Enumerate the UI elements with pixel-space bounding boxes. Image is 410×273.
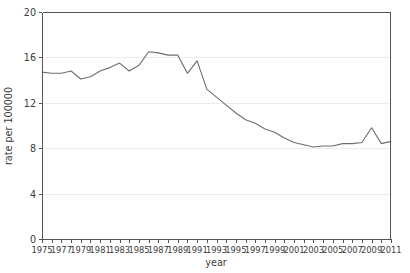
x-tick-label: 2003 bbox=[303, 245, 324, 255]
x-tick-label: 2011 bbox=[380, 245, 401, 255]
x-tick-label: 1977 bbox=[51, 245, 72, 255]
x-tick-label: 2005 bbox=[322, 245, 343, 255]
y-axis-title: rate per 100000 bbox=[3, 87, 14, 165]
x-tick-label: 1987 bbox=[148, 245, 169, 255]
y-tick-label: 12 bbox=[24, 98, 36, 109]
x-tick-label: 1997 bbox=[245, 245, 266, 255]
x-tick-label: 1981 bbox=[90, 245, 111, 255]
y-tick-label: 0 bbox=[30, 234, 36, 245]
x-tick-label: 2009 bbox=[361, 245, 382, 255]
x-tick-label: 1995 bbox=[225, 245, 246, 255]
x-tick-label: 2007 bbox=[342, 245, 363, 255]
y-tick-label: 4 bbox=[30, 189, 36, 200]
x-axis-tick-labels: 1975197719791981198319851987198919911993… bbox=[31, 245, 401, 255]
y-tick-label: 16 bbox=[24, 52, 36, 63]
line-chart: 048121620 197519771979198119831985198719… bbox=[0, 0, 410, 273]
x-axis-title: year bbox=[205, 257, 226, 268]
x-tick-label: 1979 bbox=[70, 245, 91, 255]
y-tick-label: 20 bbox=[24, 7, 36, 18]
x-tick-label: 2001 bbox=[283, 245, 304, 255]
x-tick-label: 1999 bbox=[264, 245, 285, 255]
x-tick-label: 1975 bbox=[31, 245, 52, 255]
x-tick-label: 1983 bbox=[109, 245, 130, 255]
x-tick-label: 1985 bbox=[128, 245, 149, 255]
x-tick-label: 1991 bbox=[187, 245, 208, 255]
x-tick-label: 1993 bbox=[206, 245, 227, 255]
y-tick-label: 8 bbox=[30, 143, 36, 154]
plot-area-background bbox=[42, 12, 391, 239]
chart-figure: 048121620 197519771979198119831985198719… bbox=[0, 0, 410, 273]
x-tick-label: 1989 bbox=[167, 245, 188, 255]
